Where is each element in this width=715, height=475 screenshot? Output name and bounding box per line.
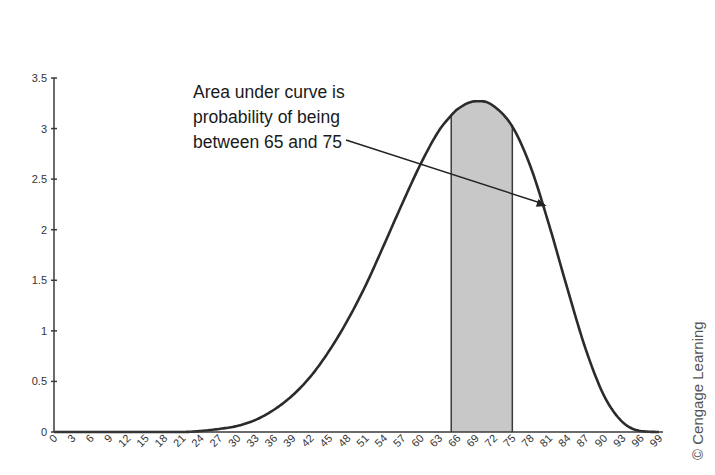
density-curve — [54, 101, 659, 432]
y-axis-ticks: 00.511.522.533.5 — [32, 72, 57, 438]
x-tick-label: 45 — [317, 432, 334, 449]
x-tick-label: 87 — [574, 432, 591, 449]
x-tick-label: 90 — [592, 432, 609, 449]
x-tick-label: 21 — [171, 432, 188, 449]
x-tick-label: 81 — [537, 432, 554, 449]
y-tick-label: 2 — [41, 224, 47, 236]
x-tick-label: 33 — [244, 432, 261, 449]
y-tick-label: 2.5 — [32, 173, 47, 185]
x-tick-label: 54 — [372, 432, 389, 449]
x-tick-label: 48 — [336, 432, 353, 449]
x-tick-label: 99 — [647, 432, 664, 449]
x-tick-label: 72 — [482, 432, 499, 449]
shaded-area-65-to-75 — [451, 101, 512, 432]
x-tick-label: 66 — [446, 432, 463, 449]
annotation-line-2: probability of being — [193, 107, 340, 127]
x-axis-ticks: 0369121518212427303336394245485154576063… — [47, 432, 665, 449]
x-tick-label: 42 — [299, 432, 316, 449]
x-tick-label: 57 — [391, 432, 408, 449]
y-tick-label: 1.5 — [32, 274, 47, 286]
x-tick-label: 9 — [102, 432, 115, 445]
x-tick-label: 60 — [409, 432, 426, 449]
probability-density-chart: 00.511.522.533.5 03691215182124273033363… — [0, 0, 715, 475]
annotation-line-3: between 65 and 75 — [193, 132, 342, 152]
x-tick-label: 96 — [629, 432, 646, 449]
y-tick-label: 3 — [41, 123, 47, 135]
annotation-line-1: Area under curve is — [193, 82, 345, 102]
x-tick-label: 27 — [207, 432, 224, 449]
x-tick-label: 6 — [83, 432, 96, 445]
x-tick-label: 63 — [427, 432, 444, 449]
x-tick-label: 15 — [134, 432, 151, 449]
axes — [54, 78, 663, 432]
x-tick-label: 51 — [354, 432, 371, 449]
x-tick-label: 36 — [262, 432, 279, 449]
x-tick-label: 84 — [556, 432, 573, 449]
x-tick-label: 39 — [281, 432, 298, 449]
y-tick-label: 1 — [41, 325, 47, 337]
x-tick-label: 24 — [189, 432, 206, 449]
x-tick-label: 18 — [152, 432, 169, 449]
x-tick-label: 75 — [501, 432, 518, 449]
x-tick-label: 78 — [519, 432, 536, 449]
x-tick-label: 30 — [226, 432, 243, 449]
x-tick-label: 12 — [116, 432, 133, 449]
y-tick-label: 0.5 — [32, 375, 47, 387]
copyright-credit: © Cengage Learning — [689, 321, 706, 460]
annotation-arrow-icon — [346, 140, 547, 207]
x-tick-label: 0 — [47, 432, 60, 445]
x-tick-label: 69 — [464, 432, 481, 449]
x-tick-label: 3 — [65, 432, 78, 445]
x-tick-label: 93 — [611, 432, 628, 449]
y-tick-label: 3.5 — [32, 72, 47, 84]
